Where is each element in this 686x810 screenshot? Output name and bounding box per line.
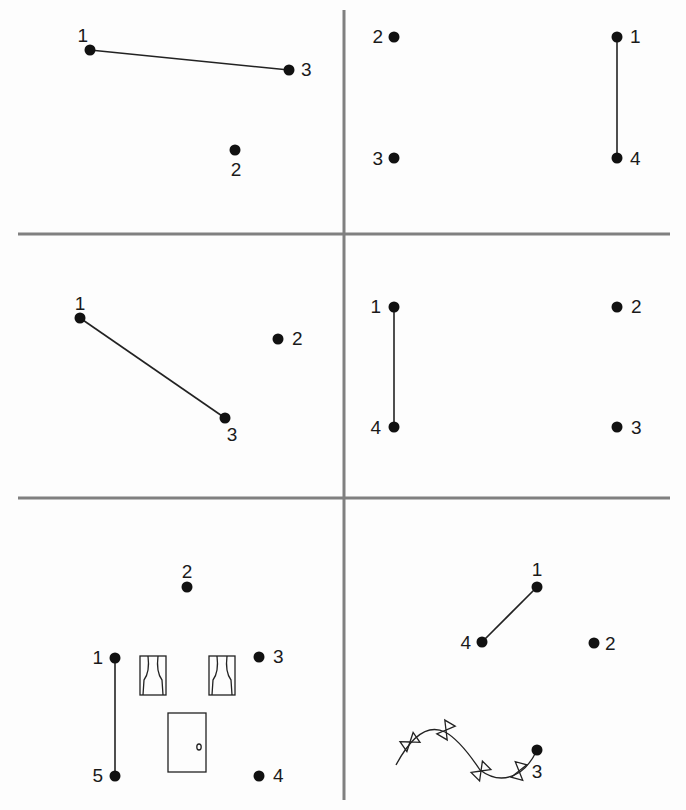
dot-label-1: 1 bbox=[532, 559, 543, 580]
dot-1[interactable] bbox=[75, 313, 86, 324]
dot-label-2: 2 bbox=[292, 328, 303, 349]
dot-3[interactable] bbox=[532, 745, 543, 756]
window-left-icon bbox=[140, 656, 166, 695]
drawn-segments bbox=[80, 37, 617, 776]
dot-label-3: 3 bbox=[631, 417, 642, 438]
panel-bottom-left: 12345 bbox=[92, 561, 284, 786]
dot-label-1: 1 bbox=[75, 293, 86, 314]
panel-top-left-segment-1-3 bbox=[90, 50, 289, 70]
dot-label-5: 5 bbox=[92, 765, 103, 786]
bunting-string-icon bbox=[396, 720, 537, 781]
dot-label-3: 3 bbox=[273, 646, 284, 667]
dot-2[interactable] bbox=[182, 582, 193, 593]
dot-label-2: 2 bbox=[231, 159, 242, 180]
dot-label-1: 1 bbox=[77, 25, 88, 46]
dot-label-1: 1 bbox=[630, 26, 641, 47]
dot-label-2: 2 bbox=[631, 296, 642, 317]
dot-1[interactable] bbox=[389, 302, 400, 313]
dot-4[interactable] bbox=[389, 422, 400, 433]
dot-4[interactable] bbox=[477, 637, 488, 648]
dot-label-1: 1 bbox=[92, 647, 103, 668]
dot-2[interactable] bbox=[389, 32, 400, 43]
dot-to-dot-worksheet: 12312341231234123451234 bbox=[0, 0, 686, 810]
dot-2[interactable] bbox=[612, 302, 623, 313]
panel-middle-right: 1234 bbox=[370, 296, 641, 438]
dot-label-1: 1 bbox=[370, 296, 381, 317]
panel-bottom-right: 1234 bbox=[460, 559, 615, 782]
dot-label-3: 3 bbox=[372, 148, 383, 169]
dot-1[interactable] bbox=[85, 45, 96, 56]
panel-top-right: 1234 bbox=[372, 26, 641, 169]
dot-3[interactable] bbox=[254, 652, 265, 663]
panel-bottom-right-segment-1-4 bbox=[482, 587, 537, 642]
dot-3[interactable] bbox=[220, 413, 231, 424]
dot-2[interactable] bbox=[273, 334, 284, 345]
numbered-dots: 12312341231234123451234 bbox=[75, 25, 642, 786]
dot-1[interactable] bbox=[612, 32, 623, 43]
dot-5[interactable] bbox=[110, 771, 121, 782]
dot-1[interactable] bbox=[110, 653, 121, 664]
door-icon bbox=[168, 713, 206, 772]
dot-3[interactable] bbox=[612, 422, 623, 433]
panel-middle-left: 123 bbox=[75, 293, 303, 445]
dot-4[interactable] bbox=[612, 153, 623, 164]
dot-label-4: 4 bbox=[370, 417, 381, 438]
dot-label-4: 4 bbox=[460, 632, 471, 653]
dot-2[interactable] bbox=[230, 145, 241, 156]
dot-3[interactable] bbox=[389, 153, 400, 164]
house-windows-and-door bbox=[140, 656, 235, 772]
dot-label-2: 2 bbox=[182, 561, 193, 582]
dot-label-3: 3 bbox=[532, 761, 543, 782]
panel-top-left: 123 bbox=[77, 25, 311, 180]
dot-1[interactable] bbox=[532, 582, 543, 593]
dot-2[interactable] bbox=[589, 638, 600, 649]
panel-middle-left-segment-1-3 bbox=[80, 318, 225, 418]
grid-lines bbox=[18, 10, 670, 800]
dot-label-3: 3 bbox=[301, 59, 312, 80]
dot-label-4: 4 bbox=[273, 765, 284, 786]
dot-3[interactable] bbox=[284, 65, 295, 76]
dot-label-4: 4 bbox=[630, 148, 641, 169]
dot-label-2: 2 bbox=[605, 633, 616, 654]
dot-label-2: 2 bbox=[372, 26, 383, 47]
dot-4[interactable] bbox=[254, 771, 265, 782]
dot-label-3: 3 bbox=[227, 424, 238, 445]
window-right-icon bbox=[209, 656, 235, 695]
